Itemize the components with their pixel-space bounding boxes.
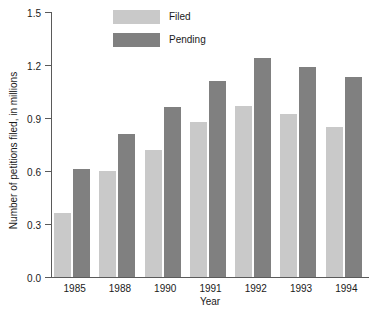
- bar-filed-1985: [54, 213, 71, 277]
- bar-group: [233, 12, 278, 277]
- bar-group: [52, 12, 97, 277]
- y-tick: 0.6: [45, 171, 51, 172]
- x-axis-title: Year: [51, 296, 369, 307]
- x-tick-label: 1994: [324, 283, 368, 294]
- y-tick-label: 0.0: [27, 272, 41, 283]
- bar-filed-1994: [326, 127, 343, 277]
- x-tick-label: 1993: [279, 283, 323, 294]
- bar-pending-1988: [118, 134, 135, 277]
- bar-pending-1985: [73, 169, 90, 277]
- y-tick: 0.0: [45, 277, 51, 278]
- x-tick-label: 1988: [98, 283, 142, 294]
- bar-pending-1992: [254, 58, 271, 277]
- bar-filed-1993: [280, 114, 297, 277]
- y-tick: 1.5: [45, 12, 51, 13]
- y-tick-label: 0.6: [27, 166, 41, 177]
- bar-filed-1991: [190, 122, 207, 277]
- x-axis-line: [51, 277, 369, 278]
- y-tick-label: 1.5: [27, 7, 41, 18]
- bar-chart-figure: Filed Pending 0.00.30.60.91.21.5 Number …: [0, 0, 379, 310]
- bar-pending-1994: [345, 77, 362, 277]
- bar-pending-1991: [209, 81, 226, 277]
- y-axis-title: Number of petitions filed, in millions: [8, 36, 19, 266]
- bar-pending-1990: [164, 107, 181, 277]
- y-tick: 1.2: [45, 65, 51, 66]
- plot-area: [52, 12, 369, 277]
- x-tick-label: 1985: [53, 283, 97, 294]
- bar-filed-1988: [99, 171, 116, 277]
- bar-filed-1992: [235, 106, 252, 277]
- bar-group: [97, 12, 142, 277]
- x-tick-label: 1991: [189, 283, 233, 294]
- bar-filed-1990: [145, 150, 162, 277]
- bar-group: [143, 12, 188, 277]
- y-tick: 0.9: [45, 118, 51, 119]
- y-tick-label: 0.3: [27, 219, 41, 230]
- bar-group: [278, 12, 323, 277]
- x-tick-label: 1990: [143, 283, 187, 294]
- bar-group: [188, 12, 233, 277]
- x-tick-label: 1992: [234, 283, 278, 294]
- bar-group: [324, 12, 369, 277]
- y-tick: 0.3: [45, 224, 51, 225]
- y-tick-label: 0.9: [27, 113, 41, 124]
- y-tick-label: 1.2: [27, 60, 41, 71]
- bar-pending-1993: [299, 67, 316, 277]
